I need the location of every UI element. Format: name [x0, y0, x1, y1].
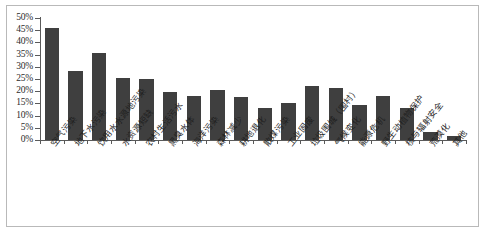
bar-chart-figure: 50%45%40%35%30%25%20%15%10%5%0% 空气污染地下水污…: [0, 0, 486, 233]
x-axis-category-labels: 空气污染地下水污染饮用水水源地污染水资源短缺农村生活污水黑臭水体海洋污染森林减少…: [0, 141, 486, 233]
y-axis-tick-label: 45%: [0, 25, 33, 34]
y-axis-tick-label: 5%: [0, 123, 33, 132]
y-axis-tick-label: 35%: [0, 50, 33, 59]
bar: [45, 28, 59, 140]
y-axis-tick-label: 30%: [0, 62, 33, 71]
y-axis-tick-label: 50%: [0, 13, 33, 22]
y-axis-tick-label: 40%: [0, 37, 33, 46]
y-axis-tick-label: 25%: [0, 74, 33, 83]
y-axis-tick-label: 20%: [0, 86, 33, 95]
y-axis-tick-label: 10%: [0, 111, 33, 120]
y-axis-tick-label: 15%: [0, 98, 33, 107]
